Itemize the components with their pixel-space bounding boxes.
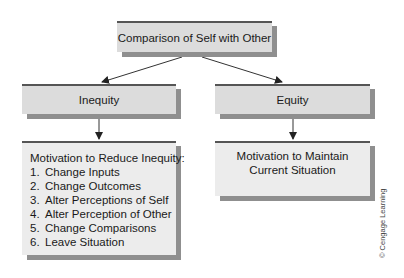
- list-item: 6.Leave Situation: [30, 235, 176, 249]
- arrow-to-equity: [202, 57, 282, 82]
- comparison-box: Comparison of Self with Other: [117, 21, 272, 52]
- maintain-situation-box: Motivation to Maintain Current Situation: [215, 141, 370, 196]
- item-number: 6.: [30, 235, 45, 249]
- list-item: 3.Alter Perceptions of Self: [30, 193, 176, 207]
- arrow-to-inequity: [102, 57, 182, 82]
- item-number: 3.: [30, 193, 45, 207]
- list-item: 1.Change Inputs: [30, 165, 176, 179]
- reduce-inequity-list: 1.Change Inputs 2.Change Outcomes 3.Alte…: [30, 165, 176, 249]
- item-text: Alter Perceptions of Self: [45, 193, 168, 207]
- copyright-credit: © Cengage Learning: [378, 189, 387, 258]
- equity-label: Equity: [277, 93, 309, 107]
- item-number: 1.: [30, 165, 45, 179]
- item-text: Change Comparisons: [45, 221, 156, 235]
- item-text: Change Outcomes: [45, 179, 141, 193]
- list-item: 4.Alter Perception of Other: [30, 207, 176, 221]
- maintain-line-1: Motivation to Maintain: [215, 149, 370, 163]
- item-number: 5.: [30, 221, 45, 235]
- item-text: Alter Perception of Other: [45, 207, 172, 221]
- reduce-inequity-box: Motivation to Reduce Inequity: 1.Change …: [22, 141, 176, 255]
- item-text: Leave Situation: [45, 235, 124, 249]
- comparison-label: Comparison of Self with Other: [118, 31, 271, 45]
- item-number: 4.: [30, 207, 45, 221]
- inequity-label: Inequity: [79, 93, 119, 107]
- list-item: 5.Change Comparisons: [30, 221, 176, 235]
- maintain-line-2: Current Situation: [215, 163, 370, 177]
- equity-box: Equity: [215, 84, 370, 114]
- reduce-inequity-heading: Motivation to Reduce Inequity:: [30, 151, 176, 165]
- item-number: 2.: [30, 179, 45, 193]
- inequity-box: Inequity: [22, 84, 176, 114]
- list-item: 2.Change Outcomes: [30, 179, 176, 193]
- item-text: Change Inputs: [45, 165, 120, 179]
